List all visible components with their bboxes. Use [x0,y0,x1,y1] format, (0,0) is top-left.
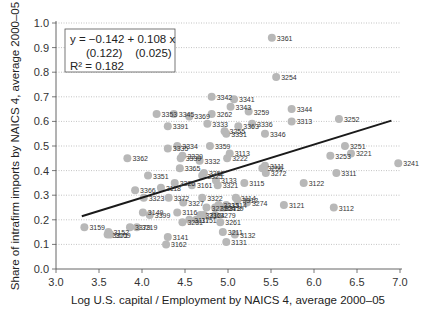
point-label: 3315 [224,202,240,209]
x-tick-label: 3.0 [48,276,63,288]
point-label: 3322 [207,195,223,202]
x-tick-label: 6.0 [306,276,321,288]
y-tick-label: 1.0 [34,17,49,29]
y-tick-label: 0.2 [34,214,49,226]
data-point [208,93,216,101]
data-point [268,34,276,42]
point-label: 3149 [148,209,164,216]
data-point [80,223,88,231]
point-label: 3251 [350,143,366,150]
data-point [326,152,334,160]
point-label: 3219 [142,224,158,231]
point-label: 3311 [341,170,356,177]
data-point [335,115,343,123]
data-point [164,122,172,130]
point-label: 3327 [188,200,204,207]
point-label: 3369 [194,113,210,120]
point-label: 3361 [277,35,293,42]
point-label: 3346 [270,131,286,138]
point-label: 3353 [162,111,178,118]
data-point [261,130,269,138]
point-label: 3279 [220,212,236,219]
point-label: 3391 [173,123,189,130]
data-point [227,103,235,111]
equation-line-2: (0.122) (0.025) [86,47,172,59]
data-point [139,208,147,216]
y-tick-label: 0.0 [34,263,49,275]
point-label: 3162 [171,241,187,248]
data-point [123,154,131,162]
point-label: 3326 [180,180,196,187]
data-point [288,105,296,113]
y-tick-label: 0.3 [34,189,49,201]
point-label: 3372 [174,195,190,202]
data-point [153,110,161,118]
point-label: 3169 [115,232,131,239]
point-label: 3118 [166,185,181,192]
x-tick-label: 7.0 [392,276,407,288]
y-tick-label: 0.5 [34,140,49,152]
scatter-chart: 0.00.10.20.30.40.50.60.70.80.91.03.03.54… [0,0,430,321]
data-point [206,142,214,150]
y-tick-label: 0.4 [34,165,49,177]
equation-line-3: R² = 0.182 [70,60,124,72]
data-point [216,218,224,226]
x-tick-label: 4.5 [177,276,192,288]
point-label: 3274 [252,200,268,207]
data-point [330,204,338,212]
data-point [131,186,139,194]
point-label: 3121 [289,202,305,209]
point-label: 3342 [217,94,233,101]
y-tick-label: 0.8 [34,66,49,78]
x-tick-label: 3.5 [91,276,106,288]
data-point [173,208,181,216]
point-label: 3313 [297,118,313,125]
point-label: 3241 [403,160,419,167]
point-label: 3329 [187,153,203,160]
point-label: 3334 [182,143,198,150]
point-label: 3254 [281,74,297,81]
x-tick-label: 5.5 [263,276,278,288]
point-label: 3116 [182,209,197,216]
point-label: 3252 [344,116,360,123]
y-axis-title: Share of intrafirm imports by NAICS 4, a… [9,2,21,290]
point-label: 3332 [205,158,221,165]
point-label: 3131 [231,239,247,246]
point-label: 3359 [215,143,231,150]
point-label: 3321 [223,182,239,189]
y-tick-label: 0.6 [34,115,49,127]
equation-line-1: y = −0.142 + 0.108 x [70,33,175,45]
data-point [165,194,173,202]
point-label: 3112 [339,205,354,212]
point-label: 3345 [179,111,195,118]
equation-box: y = −0.142 + 0.108 x (0.122) (0.025) R² … [65,29,175,72]
data-point [341,142,349,150]
data-point [164,144,172,152]
point-label: 3341 [239,96,255,103]
point-label: 3323 [149,195,165,202]
x-tick-label: 6.5 [349,276,364,288]
data-point [219,228,227,236]
point-label: 3343 [236,104,252,111]
point-label: 3331 [231,131,247,138]
point-label: 3161 [197,182,213,189]
point-label: 3253 [335,153,351,160]
data-point [300,179,308,187]
point-label: 3365 [185,165,201,172]
point-label: 3141 [173,234,189,241]
data-point [288,117,296,125]
point-label: 3344 [297,106,313,113]
point-label: 3259 [254,109,270,116]
data-point [176,164,184,172]
data-point [222,238,230,246]
data-point [162,240,170,248]
data-point [144,172,152,180]
data-point [178,218,186,226]
point-label: 3262 [217,111,233,118]
point-label: 3111 [270,163,285,170]
data-point [240,179,248,187]
point-label: 3366 [140,187,156,194]
data-point [203,120,211,128]
point-label: 3333 [212,121,228,128]
x-tick-label: 5.0 [220,276,235,288]
